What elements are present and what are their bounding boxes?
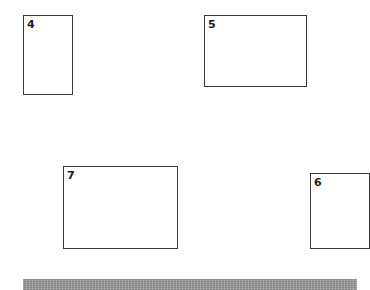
box-5-label: 5	[208, 19, 216, 30]
box-6: 6	[310, 173, 370, 249]
box-4-label: 4	[27, 19, 35, 30]
box-7: 7	[63, 166, 178, 249]
box-6-label: 6	[314, 177, 322, 188]
box-7-label: 7	[67, 170, 75, 181]
box-4: 4	[23, 15, 73, 95]
box-5: 5	[204, 15, 307, 87]
gray-bar	[23, 279, 357, 290]
